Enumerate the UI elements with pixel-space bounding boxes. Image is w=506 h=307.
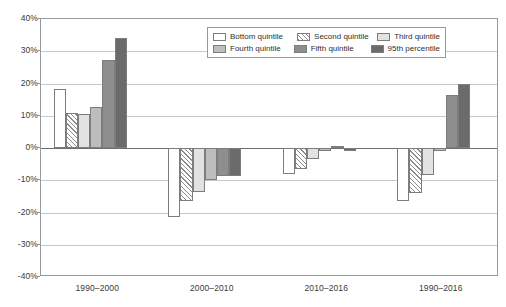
legend-swatch-fifth-quintile bbox=[294, 45, 307, 53]
legend-item-95th-percentile: 95th percentile bbox=[371, 44, 440, 53]
bar bbox=[229, 148, 241, 176]
y-axis-tick-label: -10% bbox=[4, 174, 38, 184]
bar bbox=[458, 84, 470, 149]
legend-swatch-fourth-quintile bbox=[213, 45, 226, 53]
legend-label: Bottom quintile bbox=[230, 32, 283, 41]
bar-chart: 40%30%20%10%0%-10%-20%-30%-40% 1990–2000… bbox=[0, 0, 506, 307]
bar bbox=[54, 89, 66, 148]
bar bbox=[446, 95, 458, 148]
bar-group bbox=[41, 19, 156, 275]
bar bbox=[180, 148, 192, 201]
y-axis-tick-label: -30% bbox=[4, 239, 38, 249]
bar bbox=[344, 148, 356, 151]
y-axis-tick-label: 30% bbox=[4, 45, 38, 55]
x-axis-tick-label: 1990–2000 bbox=[76, 283, 119, 293]
bar bbox=[78, 114, 90, 148]
bar bbox=[115, 38, 127, 148]
bar bbox=[205, 148, 217, 180]
legend-label: Fourth quintile bbox=[230, 44, 281, 53]
bar bbox=[90, 107, 102, 148]
legend-swatch-95th-percentile bbox=[371, 45, 384, 53]
bar bbox=[66, 113, 78, 148]
legend-label: Third quintile bbox=[394, 32, 440, 41]
legend-item-second-quintile: Second quintile bbox=[297, 32, 377, 41]
legend-item-third-quintile: Third quintile bbox=[377, 32, 440, 41]
legend-item-fourth-quintile: Fourth quintile bbox=[213, 44, 294, 53]
bar bbox=[283, 148, 295, 174]
bar bbox=[102, 60, 114, 148]
y-axis-tick-label: 20% bbox=[4, 78, 38, 88]
legend-row: Fourth quintile Fifth quintile 95th perc… bbox=[213, 44, 440, 53]
bar bbox=[434, 148, 446, 151]
bar bbox=[422, 148, 434, 175]
bar bbox=[319, 148, 331, 151]
legend-swatch-second-quintile bbox=[297, 33, 310, 41]
legend-label: Second quintile bbox=[314, 32, 369, 41]
y-axis-tick-label: 10% bbox=[4, 110, 38, 120]
bar bbox=[409, 148, 421, 193]
bar bbox=[217, 148, 229, 176]
legend-item-bottom-quintile: Bottom quintile bbox=[213, 32, 297, 41]
bar bbox=[397, 148, 409, 201]
x-axis-tick-label: 1990–2016 bbox=[419, 283, 462, 293]
bar bbox=[307, 148, 319, 159]
legend-swatch-third-quintile bbox=[377, 33, 390, 41]
legend-item-fifth-quintile: Fifth quintile bbox=[294, 44, 371, 53]
bar bbox=[331, 146, 343, 148]
y-axis-tick-mark bbox=[36, 276, 40, 277]
chart-legend: Bottom quintile Second quintile Third qu… bbox=[207, 27, 446, 58]
x-axis-tick-label: 2000–2010 bbox=[190, 283, 233, 293]
bar bbox=[168, 148, 180, 217]
y-axis-tick-label: 40% bbox=[4, 13, 38, 23]
y-axis-tick-label: -40% bbox=[4, 271, 38, 281]
legend-row: Bottom quintile Second quintile Third qu… bbox=[213, 32, 440, 41]
legend-swatch-bottom-quintile bbox=[213, 33, 226, 41]
legend-label: 95th percentile bbox=[388, 44, 440, 53]
legend-label: Fifth quintile bbox=[311, 44, 354, 53]
bar bbox=[193, 148, 205, 192]
x-axis-tick-label: 2010–2016 bbox=[305, 283, 348, 293]
bar bbox=[295, 148, 307, 169]
y-axis-tick-label: -20% bbox=[4, 207, 38, 217]
y-axis-tick-label: 0% bbox=[4, 142, 38, 152]
